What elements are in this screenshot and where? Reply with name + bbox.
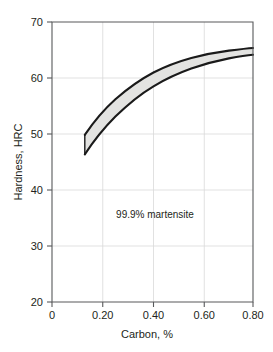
ytick-label-20: 20 (31, 296, 43, 308)
martensite-annotation: 99.9% martensite (116, 209, 194, 220)
chart-container: 70 60 50 40 30 20 0 0.20 0.40 0.60 0.80 … (0, 0, 273, 352)
plot-axes-frame (52, 22, 253, 302)
xtick-label-060: 0.60 (194, 309, 215, 321)
ytick-label-60: 60 (31, 72, 43, 84)
horizontal-gridlines (52, 78, 253, 246)
ytick-label-70: 70 (31, 16, 43, 28)
x-axis-title: Carbon, % (121, 328, 173, 340)
ytick-label-30: 30 (31, 240, 43, 252)
hardness-vs-carbon-chart: 70 60 50 40 30 20 0 0.20 0.40 0.60 0.80 … (0, 0, 273, 352)
xtick-label-080: 0.80 (242, 309, 263, 321)
y-axis-title: Hardness, HRC (12, 123, 24, 200)
xtick-label-020: 0.20 (92, 309, 113, 321)
xtick-label-0: 0 (49, 309, 55, 321)
x-axis-ticks (52, 302, 253, 307)
x-axis-tick-labels: 0 0.20 0.40 0.60 0.80 (49, 309, 264, 321)
ytick-label-40: 40 (31, 184, 43, 196)
xtick-label-040: 0.40 (143, 309, 164, 321)
y-axis-tick-labels: 70 60 50 40 30 20 (31, 16, 43, 308)
y-axis-ticks (47, 22, 52, 302)
ytick-label-50: 50 (31, 128, 43, 140)
martensite-hardness-band (85, 48, 253, 154)
